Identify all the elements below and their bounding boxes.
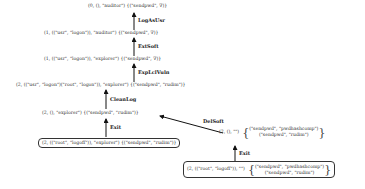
edge-label-logasusr: LogAsUsr bbox=[138, 18, 165, 23]
state-node-0: (0, (), "auditor") {("sendpwd", ∇)} bbox=[88, 4, 167, 9]
state-node-6: (2, (), "") { ("sendpwd", "pwdhashcomp")… bbox=[219, 126, 325, 138]
state-prefix: (2, (("root", "logoff")), "") bbox=[187, 167, 245, 172]
state-set: ("sendpwd", "pwdhashcomp") ("sendpwd", "… bbox=[255, 164, 324, 176]
edge-label-delsoft: DelSoft bbox=[203, 119, 224, 124]
edge-label-extsoft: ExtSoft bbox=[138, 44, 159, 49]
edge-label-explclvuln: ExpLclVuln bbox=[138, 70, 169, 75]
state-node-5-initial: (2, (("root", "logoff")), "explorer") {(… bbox=[38, 138, 180, 148]
state-set-line: ("sendpwd", "rudim") bbox=[265, 170, 315, 176]
state-set-line: ("sendpwd", "rudim") bbox=[259, 132, 309, 138]
state-set: ("sendpwd", "pwdhashcomp") ("sendpwd", "… bbox=[249, 126, 318, 138]
state-node-7-initial: (2, (("root", "logoff")), "") { ("sendpw… bbox=[183, 161, 335, 178]
edge-label-exit-2: Exit bbox=[239, 151, 250, 156]
state-node-1: (1, (("usr", "logon")), "auditor") {("se… bbox=[44, 31, 158, 36]
state-node-2: (1, (("usr", "logon")), "explorer") {("s… bbox=[44, 57, 161, 62]
edge-label-exit-1: Exit bbox=[110, 125, 121, 130]
edge-label-cleanlog: CleanLog bbox=[110, 97, 136, 102]
state-node-3: (2, (("usr", "logon")("root", "logon")),… bbox=[16, 83, 186, 88]
state-node-4: (2, (), "explorer") {("sendpwd", "rudim"… bbox=[42, 111, 139, 116]
brace-open: { bbox=[248, 164, 255, 175]
brace-close: } bbox=[324, 164, 331, 175]
brace-open: { bbox=[242, 127, 249, 138]
brace-close: } bbox=[318, 127, 325, 138]
state-prefix: (2, (), "") bbox=[219, 130, 239, 135]
